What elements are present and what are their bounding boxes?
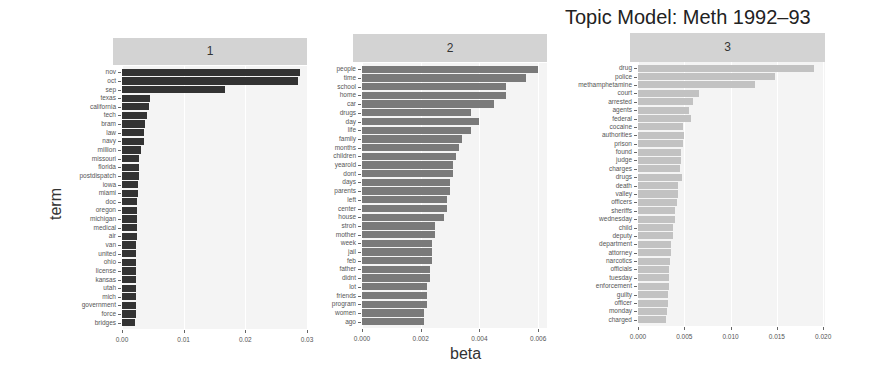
x-tick-label: 0.004 xyxy=(471,335,487,342)
y-tick xyxy=(118,107,121,108)
term-label: time xyxy=(344,74,356,82)
bar-law xyxy=(122,129,144,136)
term-label: court xyxy=(618,89,632,97)
term-label: people xyxy=(336,65,356,73)
bar-deputy xyxy=(638,232,673,239)
bar-tuesday xyxy=(638,274,669,281)
y-tick xyxy=(634,152,637,153)
y-tick xyxy=(358,252,361,253)
bar-stroh xyxy=(362,222,435,229)
y-tick xyxy=(118,202,121,203)
y-tick xyxy=(634,77,637,78)
bar-program xyxy=(362,301,427,308)
term-label: car xyxy=(347,100,356,108)
facet-plot-1 xyxy=(122,66,307,329)
y-tick xyxy=(118,254,121,255)
bar-judge xyxy=(638,157,681,164)
y-tick xyxy=(634,211,637,212)
y-tick xyxy=(118,297,121,298)
term-label: feb xyxy=(347,257,356,265)
x-tick xyxy=(479,329,480,332)
bar-oregon xyxy=(122,207,137,214)
y-tick xyxy=(358,322,361,323)
bar-family xyxy=(362,135,462,142)
bar-cocaine xyxy=(638,123,683,130)
bar-officials xyxy=(638,266,669,273)
term-label: doc xyxy=(106,198,116,206)
y-tick xyxy=(358,269,361,270)
term-label: school xyxy=(337,83,356,91)
y-tick xyxy=(634,160,637,161)
x-tick-label: 0.000 xyxy=(630,333,646,340)
y-tick xyxy=(634,85,637,86)
y-tick xyxy=(634,202,637,203)
x-tick xyxy=(122,330,123,333)
bar-drugs xyxy=(638,174,682,181)
y-tick xyxy=(118,228,121,229)
y-tick xyxy=(358,287,361,288)
bar-doc xyxy=(122,198,137,205)
term-label: officials xyxy=(610,265,632,273)
y-tick xyxy=(634,219,637,220)
term-label: women xyxy=(335,309,356,317)
x-tick-label: 0.020 xyxy=(815,333,831,340)
term-label: day xyxy=(346,118,356,126)
term-label: bram xyxy=(101,120,116,128)
bar-narcotics xyxy=(638,258,670,265)
bar-time xyxy=(362,74,526,81)
bar-monday xyxy=(638,308,667,315)
bar-methamphetamine xyxy=(638,81,755,88)
bar-feb xyxy=(362,257,432,264)
y-tick xyxy=(634,320,637,321)
term-label: life xyxy=(348,126,356,134)
y-tick xyxy=(358,104,361,105)
bar-car xyxy=(362,100,494,107)
y-tick xyxy=(118,124,121,125)
y-tick xyxy=(118,115,121,116)
y-tick xyxy=(634,228,637,229)
bar-van xyxy=(122,241,136,248)
y-tick xyxy=(634,127,637,128)
y-tick xyxy=(118,280,121,281)
term-label: utah xyxy=(103,284,116,292)
term-label: methamphetamine xyxy=(578,81,632,89)
chart-title: Topic Model: Meth 1992–93 xyxy=(565,6,811,29)
gridline xyxy=(245,66,246,329)
x-tick-label: 0.010 xyxy=(722,333,738,340)
term-label: missouri xyxy=(92,155,116,163)
bar-utah xyxy=(122,285,136,292)
term-label: found xyxy=(616,148,632,156)
y-tick xyxy=(118,90,121,91)
term-label: death xyxy=(616,182,632,190)
bar-tech xyxy=(122,112,147,119)
term-label: police xyxy=(615,73,632,81)
y-tick xyxy=(118,72,121,73)
y-tick xyxy=(118,219,121,220)
y-tick xyxy=(634,102,637,103)
term-label: house xyxy=(338,213,356,221)
x-tick-label: 0.01 xyxy=(177,336,190,343)
bar-people xyxy=(362,66,538,73)
bar-charged xyxy=(638,316,666,323)
x-tick-label: 0.002 xyxy=(413,335,429,342)
y-tick xyxy=(118,323,121,324)
bar-florida xyxy=(122,164,139,171)
term-label: air xyxy=(109,232,116,240)
bar-enforcement xyxy=(638,283,669,290)
y-tick xyxy=(118,210,121,211)
y-tick xyxy=(634,269,637,270)
bar-california xyxy=(122,103,149,110)
y-tick xyxy=(358,87,361,88)
y-tick xyxy=(634,119,637,120)
x-tick xyxy=(362,329,363,332)
term-label: attorney xyxy=(609,249,633,257)
term-label: federal xyxy=(612,115,632,123)
x-tick xyxy=(538,329,539,332)
gridline xyxy=(538,63,539,328)
term-label: ago xyxy=(345,318,356,326)
term-label: drug xyxy=(619,64,632,72)
bar-oct xyxy=(122,77,298,84)
x-tick xyxy=(638,327,639,330)
y-tick xyxy=(118,167,121,168)
bar-arrested xyxy=(638,98,693,105)
